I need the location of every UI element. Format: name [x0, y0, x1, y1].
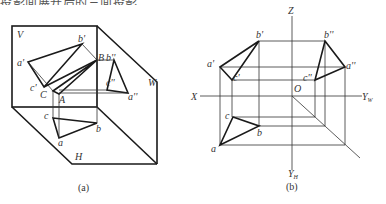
figure-b: Z X O YW YH a' b' c' a'' b'' c'' c b a (… [190, 5, 374, 193]
label-o: O [294, 83, 301, 94]
label-a-prime-b: a' [207, 58, 215, 69]
label-x: X [190, 91, 198, 102]
label-a-prime: a' [17, 57, 25, 68]
label-b-dprime: b'' [106, 52, 116, 63]
caption-a: (a) [78, 182, 89, 194]
label-b-prime-b: b' [256, 29, 264, 40]
label-yw: YW [362, 91, 374, 103]
label-A: A [58, 94, 66, 105]
label-yh: YH [288, 168, 299, 180]
label-b-prime: b' [78, 33, 86, 44]
label-a-b: a [211, 143, 216, 154]
label-c-b: c [225, 110, 230, 121]
label-a-dprime: a'' [128, 91, 138, 102]
label-yw-sub: W [368, 97, 374, 103]
oy-axis-line [97, 107, 157, 164]
label-b-dprime-b: b'' [324, 29, 334, 40]
label-v: V [17, 29, 25, 40]
label-b: b [96, 123, 101, 134]
label-c-prime: c' [30, 82, 37, 93]
label-b-b: b [257, 127, 262, 138]
label-z: Z [288, 5, 294, 16]
label-yh-sub: H [293, 174, 299, 180]
label-c-prime-b: c' [233, 72, 240, 83]
label-c-dprime: c'' [106, 77, 116, 88]
label-a-dprime-b: a'' [346, 60, 356, 71]
label-c: c [44, 110, 49, 121]
w-projection [315, 41, 345, 80]
h-plane [12, 107, 157, 164]
label-c-dprime-b: c'' [303, 72, 313, 83]
h-projection [220, 117, 259, 145]
w-plane [97, 26, 157, 164]
caption-b: (b) [286, 181, 298, 193]
label-B: B [98, 52, 104, 63]
label-C: C [40, 89, 47, 100]
projector-b [82, 44, 97, 60]
projection-diagrams: V W H a' b' c' B b'' c'' a'' C A c b a (… [0, 0, 386, 204]
45-degree-line [292, 96, 360, 158]
space-triangle [53, 60, 97, 94]
label-a: a [58, 137, 63, 148]
figure-a: V W H a' b' c' B b'' c'' a'' C A c b a (… [12, 26, 158, 194]
h-projection-triangle [53, 118, 97, 138]
label-h: H [74, 151, 83, 162]
